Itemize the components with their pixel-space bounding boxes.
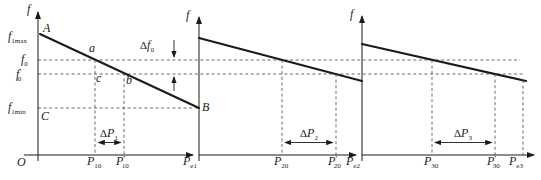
f1min-label: f1min (8, 100, 26, 116)
point-C-label: C (41, 109, 50, 123)
delta-p3-label: ΔP3 (454, 126, 472, 142)
f0-prime-label: f′0 (16, 67, 22, 83)
x-label-pe1: Pe1 (182, 154, 197, 170)
point-c-label: c (96, 71, 102, 85)
point-A-label: A (42, 21, 51, 35)
origin-label: O (17, 155, 26, 169)
plot3-droop-line (362, 44, 526, 81)
delta-f0-label: Δf0 (140, 38, 154, 54)
plot-3: f P30 P′30 Pe3 ΔP3 (350, 7, 534, 170)
plot1-droop-line (40, 34, 199, 108)
delta-p2-label: ΔP2 (300, 126, 318, 142)
x-label-p30-prime: P′30 (486, 154, 500, 170)
point-a-label: a (89, 41, 95, 55)
plot2-f-axis-label: f (186, 8, 191, 22)
f0-label: f0 (21, 52, 28, 68)
plot-1: f A a b c B C f1max f0 f′0 f1min O P10 P… (8, 2, 210, 170)
frequency-droop-characteristics-figure: f A a b c B C f1max f0 f′0 f1min O P10 P… (0, 0, 541, 180)
diagram-canvas: f A a b c B C f1max f0 f′0 f1min O P10 P… (0, 0, 541, 180)
point-b-label: b (126, 73, 132, 87)
x-label-pe3: Pe3 (508, 154, 523, 170)
x-label-pe2: Pe2 (345, 154, 360, 170)
x-label-p20: P20 (273, 154, 289, 170)
plot-2: f P20 P′20 Pe2 ΔP2 (186, 8, 362, 170)
plot3-f-axis-label: f (350, 7, 355, 21)
plot1-f-axis-label: f (27, 2, 32, 16)
x-label-p10: P10 (86, 154, 102, 170)
point-B-label: B (202, 100, 210, 114)
delta-p1-label: ΔP1 (100, 126, 118, 142)
f1max-label: f1max (8, 29, 27, 45)
x-label-p30: P30 (423, 154, 439, 170)
plot2-droop-line (199, 38, 362, 81)
x-label-p20-prime: P′20 (327, 154, 341, 170)
x-label-p10-prime: P′10 (115, 154, 129, 170)
